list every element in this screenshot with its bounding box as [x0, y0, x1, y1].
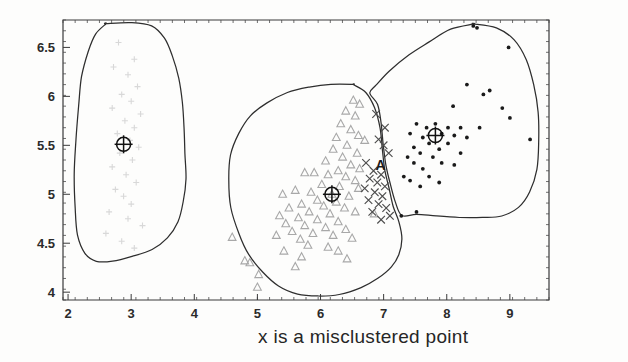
boundary-cluster-2	[229, 84, 402, 296]
data-point-triangle	[324, 243, 332, 250]
data-point-triangle	[309, 229, 317, 236]
data-point-misclustered-cross	[379, 192, 387, 200]
data-point-plus	[103, 230, 109, 236]
y-axis-tick-label: 5.5	[37, 138, 55, 153]
data-point-misclustered-cross	[375, 200, 383, 208]
data-point-misclustered-cross	[365, 196, 373, 204]
data-point-dot	[446, 142, 450, 146]
annotation-label-a: A	[375, 157, 385, 173]
data-point-misclustered-cross	[386, 212, 394, 220]
data-point-triangle	[355, 131, 363, 138]
data-point-plus	[129, 157, 135, 163]
data-point-triangle	[348, 234, 356, 241]
data-point-dot	[412, 145, 416, 149]
data-point-triangle	[353, 149, 361, 156]
data-point-triangle	[326, 210, 334, 217]
x-axis-tick-label: 5	[254, 306, 261, 321]
data-point-dot	[465, 136, 469, 140]
data-point-triangle	[318, 180, 326, 187]
y-axis-tick-label: 5	[48, 187, 55, 202]
data-point-dot	[437, 181, 441, 185]
data-point-triangle	[342, 107, 350, 114]
data-point-plus	[138, 111, 144, 117]
data-point-triangle	[273, 231, 281, 238]
data-point-misclustered-cross	[362, 159, 370, 167]
data-point-plus	[131, 125, 137, 131]
data-point-dot	[488, 89, 492, 93]
data-point-triangle	[341, 204, 349, 211]
data-point-plus	[109, 105, 115, 111]
data-point-triangle	[356, 165, 364, 172]
data-point-triangle	[291, 186, 299, 193]
data-point-plus	[125, 72, 131, 78]
data-point-triangle	[339, 153, 347, 160]
data-point-triangle	[343, 255, 351, 262]
data-point-plus	[114, 131, 120, 137]
series-cluster-3-dot	[399, 24, 532, 218]
data-point-dot	[434, 122, 438, 126]
data-point-triangle	[276, 212, 284, 219]
data-point-plus	[136, 144, 142, 150]
data-point-dot	[508, 116, 512, 120]
data-point-triangle	[324, 171, 332, 178]
centroid-markers-layer	[115, 127, 445, 204]
chart-caption: x is a misclustered point	[258, 326, 468, 348]
data-point-triangle	[351, 208, 359, 215]
data-point-dot	[415, 210, 419, 214]
data-point-misclustered-cross	[366, 175, 374, 183]
y-axis-tick-label: 6.5	[37, 40, 55, 55]
data-point-dot	[478, 126, 482, 130]
data-point-plus	[140, 223, 146, 229]
y-axis-tick-label: 6	[48, 89, 55, 104]
data-point-triangle	[337, 120, 345, 127]
data-point-plus	[135, 84, 141, 90]
data-point-plus	[122, 118, 128, 124]
data-point-plus	[119, 91, 125, 97]
data-point-plus	[119, 238, 125, 244]
data-point-dot	[465, 83, 469, 87]
data-point-plus	[123, 172, 129, 178]
data-point-triangle	[305, 208, 313, 215]
data-point-triangle	[350, 96, 358, 103]
data-point-triangle	[322, 223, 330, 230]
data-point-plus	[111, 64, 117, 70]
x-axis-tick-label: 9	[506, 306, 513, 321]
data-point-plus	[109, 164, 115, 170]
data-point-dot	[431, 155, 435, 159]
data-point-dot	[406, 155, 410, 159]
data-point-dot	[418, 151, 422, 155]
data-point-triangle	[347, 126, 355, 133]
data-point-dot	[459, 151, 463, 155]
data-point-triangle	[304, 241, 312, 248]
data-point-dot	[421, 167, 425, 171]
data-point-triangle	[343, 141, 351, 148]
data-point-dot	[459, 126, 463, 130]
data-point-dot	[408, 132, 412, 136]
data-point-triangle	[322, 157, 330, 164]
data-point-triangle	[332, 133, 340, 140]
x-axis-tick-label: 8	[443, 306, 450, 321]
data-point-dot	[528, 138, 532, 142]
data-point-triangle	[228, 233, 236, 240]
data-point-plus	[128, 98, 134, 104]
data-point-dot	[402, 175, 406, 179]
data-point-triangle	[291, 263, 299, 270]
data-point-triangle	[310, 169, 318, 176]
data-point-dot	[500, 106, 504, 110]
y-axis-tick-label: 4	[48, 285, 56, 300]
data-point-triangle	[279, 190, 287, 197]
data-point-plus	[116, 40, 122, 46]
data-point-triangle	[298, 200, 306, 207]
data-point-dot	[437, 147, 441, 151]
data-point-triangle	[334, 167, 342, 174]
data-point-plus	[128, 201, 134, 207]
data-point-dot	[427, 142, 431, 146]
data-point-plus	[133, 180, 139, 186]
boundary-cluster-3	[370, 23, 539, 217]
data-point-triangle	[334, 247, 342, 254]
data-point-triangle	[295, 214, 303, 221]
data-point-dot	[482, 93, 486, 97]
data-point-dot	[418, 185, 422, 189]
data-point-triangle	[298, 253, 306, 260]
data-point-triangle	[314, 216, 322, 223]
